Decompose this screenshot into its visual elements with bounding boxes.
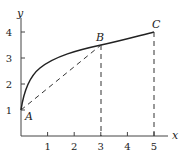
point-label-b: B: [95, 31, 104, 44]
curve: [21, 32, 154, 110]
y-tick-label: 4: [6, 27, 12, 38]
x-tick-label: 2: [71, 141, 77, 152]
point-label-a: A: [24, 110, 33, 123]
point-label-c: C: [152, 18, 161, 31]
diagram: 1 2 3 4 5 1 2 3 4 y x A B C: [0, 0, 182, 155]
y-tick-label: 2: [6, 79, 12, 90]
y-axis-label: y: [16, 7, 24, 20]
x-tick-label: 1: [44, 141, 50, 152]
y-tick-label: 3: [6, 53, 12, 64]
x-tick-label: 5: [151, 141, 157, 152]
chord-ab: [21, 45, 101, 110]
x-axis-label: x: [172, 129, 179, 142]
y-tick-label: 1: [6, 105, 12, 116]
x-tick-label: 4: [124, 141, 130, 152]
x-tick-label: 3: [98, 141, 104, 152]
